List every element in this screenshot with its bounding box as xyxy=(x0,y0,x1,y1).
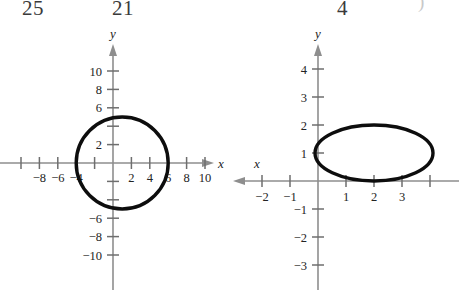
right-x-tick-label: 1 xyxy=(343,190,349,204)
top-fragment-21: 21 xyxy=(112,0,134,21)
left-y-tick-label: −6 xyxy=(89,212,102,226)
left-y-tick-label: 6 xyxy=(96,101,102,115)
right-y-axis-label: y xyxy=(313,26,321,41)
left-x-tick-label: 8 xyxy=(183,171,189,185)
right-y-tick-label: 4 xyxy=(301,63,308,77)
top-fragment-25: 25 xyxy=(22,0,44,21)
left-x-axis-arrowhead-icon xyxy=(202,159,214,167)
left-y-tick-label: 2 xyxy=(96,138,102,152)
right-y-axis-arrowhead-icon xyxy=(314,44,322,56)
right-graph-plot: −2 −1 1 2 3 4 3 2 1 −1 −2 −3 y x xyxy=(229,22,459,290)
right-x-tick-label: 2 xyxy=(371,190,377,204)
top-fragment-4: 4 xyxy=(337,0,348,21)
left-graph-panel: −8 −6 −4 2 4 6 8 10 10 8 6 2 −6 −8 −10 y xyxy=(0,22,229,290)
right-y-tick-labels: 4 3 2 1 −1 −2 −3 xyxy=(294,63,308,273)
left-x-tick-label: −8 xyxy=(33,171,46,185)
right-x-axis-label: x xyxy=(253,156,260,171)
left-x-tick-label: 2 xyxy=(128,171,134,185)
top-partial-glyph-icon: ) xyxy=(418,0,424,13)
top-text-strip: 25 21 4 ) xyxy=(0,0,459,24)
right-x-tick-labels: −2 −1 1 2 3 xyxy=(255,190,405,204)
left-x-tick-label: −6 xyxy=(51,171,64,185)
left-y-tick-label: −8 xyxy=(89,230,102,244)
right-x-tick-label: −2 xyxy=(255,190,268,204)
right-graph-panel: −2 −1 1 2 3 4 3 2 1 −1 −2 −3 y x xyxy=(229,22,459,290)
left-y-axis-arrowhead-icon xyxy=(109,44,117,56)
left-y-axis-label: y xyxy=(108,26,116,41)
right-y-tick-label: 3 xyxy=(301,91,307,105)
left-y-tick-label: 8 xyxy=(96,83,102,97)
left-x-axis-label: x xyxy=(217,156,224,171)
left-y-tick-label: 10 xyxy=(90,65,103,79)
right-y-tick-label: 1 xyxy=(301,147,307,161)
right-x-tick-label: 3 xyxy=(399,190,405,204)
left-x-tick-label: 4 xyxy=(147,171,154,185)
right-y-tick-label: −2 xyxy=(294,231,307,245)
left-y-tick-label: −10 xyxy=(82,249,102,263)
left-graph-plot: −8 −6 −4 2 4 6 8 10 10 8 6 2 −6 −8 −10 y xyxy=(0,22,229,290)
right-y-tick-label: 2 xyxy=(301,119,307,133)
right-graph-svg: −2 −1 1 2 3 4 3 2 1 −1 −2 −3 y x xyxy=(229,22,459,290)
left-x-tick-label: 10 xyxy=(199,171,212,185)
left-graph-svg: −8 −6 −4 2 4 6 8 10 10 8 6 2 −6 −8 −10 y xyxy=(0,22,229,290)
right-y-tick-label: −3 xyxy=(294,259,307,273)
left-x-tick-labels: −8 −6 −4 2 4 6 8 10 xyxy=(33,171,212,185)
right-graph-ellipse-curve xyxy=(315,125,433,181)
right-x-axis-arrowhead-icon xyxy=(233,177,245,185)
right-y-tick-label: −1 xyxy=(294,203,307,217)
